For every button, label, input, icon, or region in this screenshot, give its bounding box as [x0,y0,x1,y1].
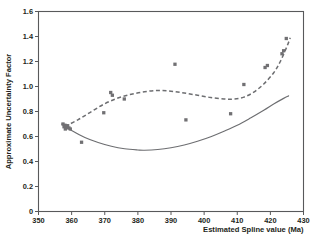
chart-figure: 00.20.40.60.81.01.21.41.6 35036037038039… [0,0,318,238]
data-point [111,94,114,97]
y-axis-ticks: 00.20.40.60.81.01.21.41.6 [23,7,39,216]
x-axis-ticks: 350360370380390400410420430 [32,212,309,226]
data-point [123,97,126,100]
data-point [229,112,232,115]
data-point [285,37,288,40]
y-axis-title: Approximate Uncertainty Factor [4,54,13,170]
data-point-markers [61,37,288,144]
x-tick-label: 420 [264,216,276,225]
data-point [280,52,283,55]
x-tick-label: 430 [297,216,309,225]
scatter-chart: 00.20.40.60.81.01.21.41.6 35036037038039… [0,0,318,238]
y-tick-label: 0.6 [23,132,33,141]
data-point [242,83,245,86]
x-tick-label: 380 [132,216,144,225]
data-point [184,118,187,121]
y-tick-label: 0.2 [23,182,33,191]
x-tick-label: 400 [198,216,210,225]
upper-trend-line [65,38,290,127]
data-point [266,64,269,67]
y-tick-label: 1.2 [23,57,33,66]
data-point [80,141,83,144]
data-point [282,49,285,52]
y-tick-label: 0.4 [23,157,34,166]
y-tick-label: 1.4 [23,32,34,41]
x-tick-label: 360 [65,216,77,225]
x-axis-title: Estimated Spline value (Ma) [203,225,304,234]
y-tick-label: 1.0 [23,82,33,91]
y-tick-label: 0 [29,207,33,216]
y-tick-label: 0.8 [23,107,33,116]
data-point [173,63,176,66]
data-point [102,111,105,114]
x-tick-label: 390 [165,216,177,225]
plot-frame [39,12,304,212]
x-tick-label: 370 [99,216,111,225]
y-tick-label: 1.6 [23,7,33,16]
x-tick-label: 410 [231,216,243,225]
x-tick-label: 350 [32,216,44,225]
data-point [69,127,72,130]
lower-trend-line [62,96,289,150]
